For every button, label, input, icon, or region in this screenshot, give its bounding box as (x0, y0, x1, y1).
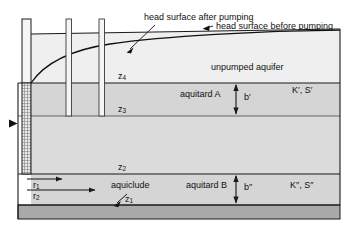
layer-pumped-aquifer (31, 116, 340, 174)
radial-distance-r1-sub: 1 (36, 183, 40, 190)
depth-marker-z2-sub: 2 (123, 165, 127, 172)
depth-marker-z2: z2 (118, 163, 126, 172)
layer-unpumped-aquifer (31, 29, 340, 83)
pumping-well (22, 19, 31, 174)
property-label-k-prime-s-prime: K′, S′ (292, 86, 312, 95)
depth-marker-z3-sub: 3 (123, 107, 127, 114)
thickness-label-b-prime: b′ (244, 93, 251, 102)
radial-distance-label-r1: r1 (33, 181, 40, 190)
thickness-label-b-double-prime: b″ (244, 183, 252, 192)
property-label-k-double-prime-s-double-prime: K″, S″ (290, 181, 313, 190)
leader-head-before-pumping (203, 26, 214, 31)
layer-label-aquitard-b: aquitard B (186, 181, 227, 190)
radial-distance-r2-sub: 2 (36, 194, 40, 201)
depth-marker-z4-sub: 4 (123, 74, 127, 81)
layer-label-aquiclude: aquiclude (111, 181, 150, 190)
layer-aquiclude (18, 205, 340, 219)
depth-marker-z4: z4 (118, 72, 126, 81)
depth-marker-z1: z1 (125, 195, 133, 204)
layer-label-unpumped-aquifer: unpumped aquifer (211, 63, 284, 72)
annotation-head-surface-before-pumping: head surface before pumping (216, 22, 333, 31)
radial-distance-label-r2: r2 (33, 192, 40, 201)
observation-well-1 (66, 19, 72, 116)
left-side-pointer-arrow (9, 120, 18, 128)
depth-marker-z1-sub: 1 (130, 197, 134, 204)
observation-well-2 (99, 19, 105, 116)
cross-section-svg (0, 0, 349, 230)
diagram-canvas: head surface after pumping head surface … (0, 0, 349, 230)
layer-label-aquitard-a: aquitard A (180, 90, 221, 99)
well-screen (22, 83, 31, 174)
depth-marker-z3: z3 (118, 105, 126, 114)
